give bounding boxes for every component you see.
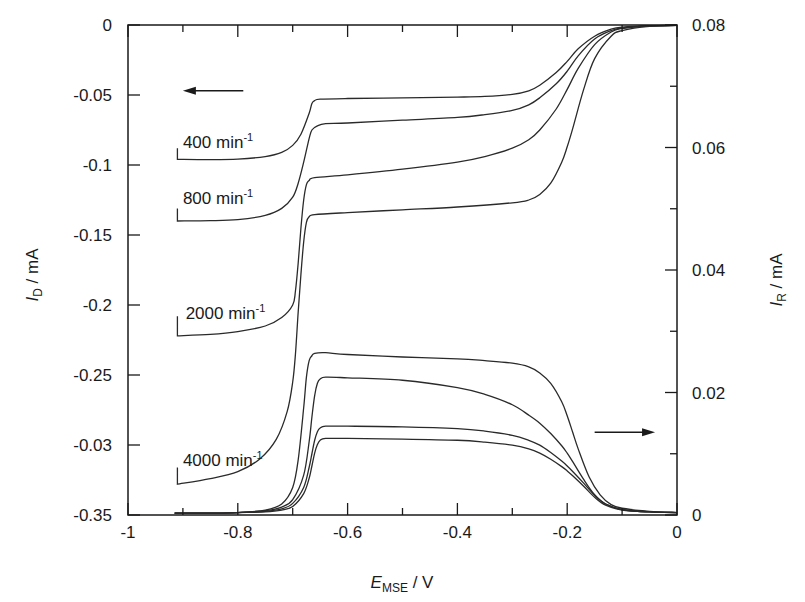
y-left-axis-title: ID / mA [23, 248, 45, 302]
y-right-axis-title: IR / mA [767, 253, 789, 307]
x-tick-label: -0.6 [333, 523, 362, 542]
x-tick-label: -1 [120, 523, 135, 542]
y-left-tick-label: -0.05 [73, 86, 112, 105]
curve-label: 400 min-1 [183, 131, 253, 152]
y-right-tick-label: 0.04 [692, 261, 725, 280]
y-right-tick-label: 0.06 [692, 139, 725, 158]
arrow-right-head-icon [642, 428, 655, 436]
annotations-group: 400 min-1800 min-12000 min-14000 min-1 [183, 87, 655, 470]
axis-tick-labels: -1-0.8-0.6-0.4-0.200-0.05-0.1-0.15-0.2-0… [73, 16, 725, 542]
x-axis-title: EMSE / V [371, 573, 435, 595]
x-tick-label: -0.4 [443, 523, 472, 542]
y-right-tick-label: 0.02 [692, 384, 725, 403]
curve-label: 4000 min-1 [183, 449, 263, 470]
rrde-voltammogram-chart: -1-0.8-0.6-0.4-0.200-0.05-0.1-0.15-0.2-0… [0, 0, 805, 602]
curve-label: 2000 min-1 [186, 302, 266, 323]
x-tick-label: 0 [672, 523, 681, 542]
y-left-tick-label: -0.1 [83, 156, 112, 175]
y-left-tick-label: -0.25 [73, 366, 112, 385]
y-right-tick-label: 0.08 [692, 16, 725, 35]
plot-frame [128, 25, 677, 515]
curve-disk-2000-min-1 [177, 25, 677, 335]
x-tick-label: -0.8 [223, 523, 252, 542]
y-left-tick-label: -0.03 [73, 436, 112, 455]
y-left-tick-label: -0.35 [73, 506, 112, 525]
curves-group [175, 25, 677, 513]
arrow-left-head-icon [183, 87, 196, 95]
curve-disk-4000-min-1 [177, 25, 677, 484]
curve-label: 800 min-1 [183, 187, 253, 208]
axis-ticks [128, 25, 677, 515]
y-right-tick-label: 0 [692, 506, 701, 525]
y-left-tick-label: -0.2 [83, 296, 112, 315]
curve-ring-800-min-1 [175, 377, 677, 513]
y-left-tick-label: -0.15 [73, 226, 112, 245]
x-tick-label: -0.2 [553, 523, 582, 542]
y-left-tick-label: 0 [103, 16, 112, 35]
